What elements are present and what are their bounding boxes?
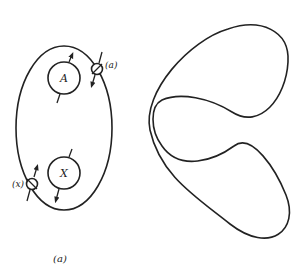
junction-a: (a) [92, 52, 118, 85]
figure-caption: (a) [53, 253, 67, 264]
arrow-down-icon [56, 189, 59, 200]
junction-x: (x) [12, 167, 38, 201]
node-label: A [59, 72, 68, 85]
node-label: X [59, 167, 69, 180]
node-a: A [48, 55, 80, 103]
loop-upper [149, 25, 289, 238]
figure-b [149, 25, 289, 238]
junction-label: (a) [105, 60, 118, 70]
junction-label: (x) [12, 179, 25, 189]
arrow-up-icon [34, 167, 37, 177]
node-x: X [48, 149, 80, 200]
arrow-up-icon [69, 55, 72, 62]
diagram-canvas: A (a) X (x) (a) [0, 0, 307, 278]
arrow-down-icon [92, 75, 95, 85]
figure-a: A (a) X (x) (a) [12, 46, 118, 264]
